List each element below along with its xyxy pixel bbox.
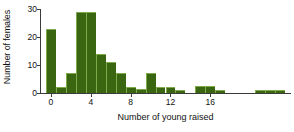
x-tick-label: 16 — [200, 98, 220, 107]
bar — [205, 86, 215, 93]
bar — [195, 86, 205, 93]
x-axis-line — [40, 93, 291, 94]
bar-series — [41, 9, 290, 93]
bar — [255, 90, 265, 93]
bar — [156, 87, 166, 93]
bar — [175, 90, 185, 93]
bar — [166, 87, 176, 93]
x-tick-label: 0 — [41, 98, 61, 107]
y-tick-label: 0 — [7, 89, 37, 98]
bar — [76, 12, 86, 93]
bar — [116, 73, 126, 93]
x-tick-label: 8 — [121, 98, 141, 107]
y-tick-label: 10 — [7, 61, 37, 70]
y-tick-label: 20 — [7, 33, 37, 42]
bar — [136, 89, 146, 93]
bar — [86, 12, 96, 93]
plot-area — [41, 9, 290, 93]
bar — [46, 29, 56, 93]
bar — [215, 90, 225, 93]
bar — [275, 90, 285, 93]
bar — [106, 62, 116, 93]
x-axis-label: Number of young raised — [41, 112, 290, 122]
bar — [146, 73, 156, 93]
bar — [56, 87, 66, 93]
y-axis-ticks: 0102030 — [0, 0, 37, 132]
x-tick-label: 12 — [160, 98, 180, 107]
bar — [66, 73, 76, 93]
bar — [265, 90, 275, 93]
y-tick-label: 30 — [7, 5, 37, 14]
bar — [126, 87, 136, 93]
histogram-chart: Number of females 0102030 Number of youn… — [0, 0, 294, 132]
x-tick-label: 4 — [81, 98, 101, 107]
bar — [96, 54, 106, 93]
